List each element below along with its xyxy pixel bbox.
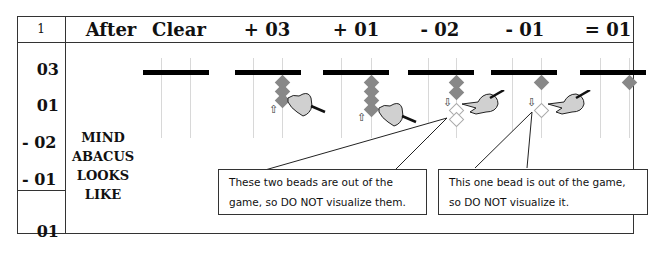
callout-text: This one bead is out of the game, [449,172,637,192]
callout-one-bead: This one bead is out of the game, so DO … [438,169,648,215]
callout-text: These two beads are out of the [229,172,416,192]
callout-pointers [0,0,672,255]
callout-text: game, so DO NOT visualize them. [229,192,416,212]
callout-two-beads: These two beads are out of the game, so … [218,169,427,215]
callout-text: so DO NOT visualize it. [449,192,637,212]
